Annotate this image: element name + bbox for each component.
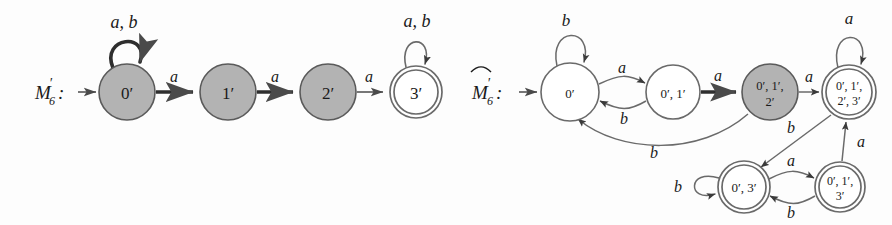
left-machine-label: M 6 ′ : (34, 76, 64, 108)
right-state-t4-label: 0′, 3′ (731, 180, 756, 195)
right-edge-t3-t4-label: b (787, 119, 795, 136)
right-state-t3-label-line2: 2′, 3′ (837, 94, 861, 108)
left-state-3-label: 3′ (410, 84, 422, 103)
left-machine-label-colon: : (58, 82, 64, 103)
left-machine-label-subscript: 6 (49, 94, 55, 108)
right-machine-label-colon: : (496, 82, 502, 103)
right-machine-label-hat (471, 67, 491, 72)
right-edge-t2-t0-label: b (650, 144, 658, 161)
right-edge-t2-t0 (578, 114, 748, 145)
left-state-2-label: 2′ (322, 84, 334, 103)
right-edge-t0-t1-label: a (618, 59, 626, 76)
right-edge-t2-t3-label: a (805, 68, 813, 85)
right-edge-t1-t2-label: a (714, 67, 722, 84)
left-edge-2-3-label: a (365, 68, 373, 85)
right-machine-label: M 6 ′ : (471, 67, 502, 108)
right-state-t5-label-line1: 0′, 1′, (827, 174, 853, 188)
right-edge-t1-t0-label: b (620, 110, 628, 127)
left-state-0-label: 0′ (121, 84, 133, 103)
automata-figure: M 6 ′ : 0′ 1′ 2′ 3′ a, b a a a a, b (0, 0, 892, 225)
right-edge-t4-t5 (769, 171, 814, 179)
left-state-1-label: 1′ (222, 84, 234, 103)
right-loop-t4-label: b (674, 178, 682, 195)
left-loop-3-label: a, b (404, 11, 431, 31)
left-edge-1-2-label: a (271, 68, 279, 85)
right-edge-t5-t4 (770, 196, 815, 204)
right-state-t3-label-line1: 0′, 1′, (836, 79, 862, 93)
right-machine-group: M 6 ′ : 0′ 0′, 1′ 0′, 1′, 2′ 0′, 1′, 2′,… (471, 9, 876, 221)
right-state-t1-label: 0′, 1′ (660, 86, 685, 101)
left-machine-label-prime: ′ (49, 76, 53, 91)
right-self-loop-t4 (694, 176, 719, 195)
right-loop-t0-label: b (562, 11, 571, 30)
right-edge-t4-t5-label: a (787, 152, 795, 169)
left-self-loop-3 (405, 42, 427, 67)
left-machine-group: M 6 ′ : 0′ 1′ 2′ 3′ a, b a a a a, b (34, 11, 442, 120)
right-machine-label-prime: ′ (487, 76, 491, 91)
left-edge-0-1-label: a (170, 68, 178, 85)
right-edge-t5-t4-label: b (787, 204, 795, 221)
right-state-t5-label-line2: 3′ (836, 189, 845, 203)
right-loop-t3-label: a (845, 9, 854, 28)
left-loop-0-label: a, b (111, 12, 138, 32)
automata-canvas: M 6 ′ : 0′ 1′ 2′ 3′ a, b a a a a, b (0, 0, 892, 225)
right-edge-t1-t0 (600, 101, 646, 109)
right-self-loop-t3 (837, 37, 863, 68)
right-machine-label-subscript: 6 (487, 94, 493, 108)
right-state-t0-label: 0′ (565, 86, 575, 101)
right-edge-t5-t3-label: a (857, 133, 865, 150)
right-edge-t0-t1 (599, 76, 645, 84)
right-state-t2-label-line2: 2′ (766, 95, 775, 109)
right-self-loop-t0 (556, 35, 586, 66)
right-edge-t5-t3 (842, 122, 846, 161)
right-state-t2-label-line1: 0′, 1′, (756, 79, 783, 93)
right-edge-t3-t4 (761, 115, 831, 167)
